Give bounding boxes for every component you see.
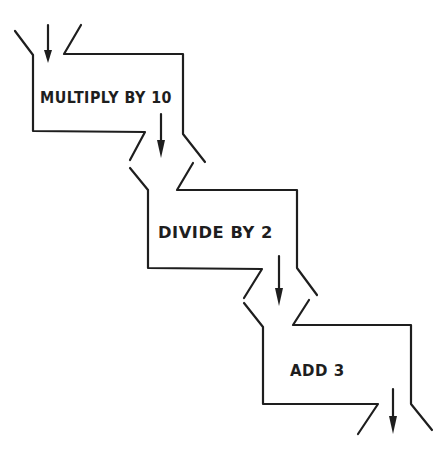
- function-machine-diagram: MULTIPLY BY 10 DIVIDE BY 2 ADD 3: [0, 0, 445, 456]
- stage-3-label: ADD 3: [290, 362, 345, 380]
- stage-2-box: DIVIDE BY 2: [130, 163, 317, 298]
- stage-1-label: MULTIPLY BY 10: [40, 89, 172, 107]
- output-arrow-icon: [389, 389, 397, 434]
- stage-1-box: MULTIPLY BY 10: [15, 25, 205, 162]
- flow-arrow-2-to-3-icon: [275, 256, 283, 306]
- stage-3-box: ADD 3: [244, 300, 432, 434]
- flow-arrow-1-to-2-icon: [157, 114, 165, 158]
- input-arrow-icon: [44, 25, 52, 63]
- stage-2-label: DIVIDE BY 2: [158, 224, 273, 242]
